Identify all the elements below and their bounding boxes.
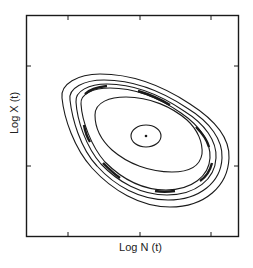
x-axis-label: Log N (t) [0,241,253,253]
orbit-2 [95,97,202,172]
island [84,125,90,142]
island [196,127,209,147]
island [155,191,175,192]
orbit-4 [70,80,222,200]
island [138,91,170,105]
y-axis-label: Log X (t) [8,92,20,134]
axis-ticks [27,16,239,237]
phase-plot [0,0,253,268]
plot-frame [27,16,239,237]
orbits [62,74,229,207]
equilibrium-point [145,135,148,138]
orbit-island-outer [76,84,216,195]
island [103,163,120,178]
